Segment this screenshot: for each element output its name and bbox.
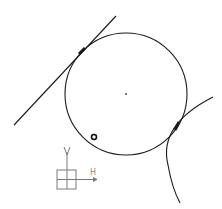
tangent-constraint-marker-arc[interactable] [175,122,179,130]
tangent-line[interactable] [14,16,116,125]
tangent-constraint-marker-line[interactable] [79,48,85,54]
horizontal-axis-label: H [90,168,96,177]
center-point[interactable] [125,93,127,95]
point-marker-icon[interactable] [92,135,97,140]
adjacent-arc[interactable] [166,97,213,203]
sketch-canvas[interactable]: H [0,0,222,209]
